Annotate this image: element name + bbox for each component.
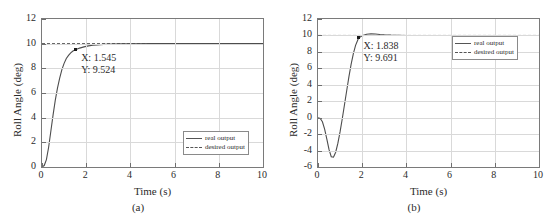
y-axis-tick	[318, 151, 322, 152]
x-axis-tick	[219, 163, 220, 167]
y-axis-tick	[318, 85, 322, 86]
legend-swatch-dashed	[455, 52, 471, 53]
y-axis-tick	[318, 101, 322, 102]
x-axis-tick	[318, 163, 319, 167]
y-axis-tick-label: 4	[286, 79, 312, 89]
y-axis-tick-label: 6	[286, 62, 312, 72]
x-axis-tick-label: 2	[73, 170, 97, 180]
x-axis-tick	[451, 163, 452, 167]
gridline-horizontal	[318, 151, 539, 152]
gridline-horizontal	[318, 134, 539, 135]
gridline-vertical	[175, 19, 176, 167]
gridline-vertical	[86, 19, 87, 167]
x-axis-tick	[495, 163, 496, 167]
data-tip-y-value: Y: 9.524	[81, 64, 116, 76]
y-axis-tick-label: 2	[10, 136, 36, 146]
y-axis-tick-label: 10	[10, 38, 36, 48]
gridline-horizontal	[42, 93, 263, 94]
gridline-horizontal	[42, 44, 263, 45]
y-axis-tick-label: 4	[10, 112, 36, 122]
chart-legend[interactable]: real outputdesired output	[183, 131, 249, 155]
x-axis-tick	[130, 163, 131, 167]
x-axis-tick	[539, 163, 540, 167]
x-axis-tick-label: 4	[393, 170, 417, 180]
y-axis-title-a: Roll Angle (deg)	[11, 63, 23, 137]
y-axis-tick	[42, 142, 46, 143]
gridline-vertical	[406, 19, 407, 167]
x-axis-title-b: Time (s)	[317, 185, 540, 197]
gridline-horizontal	[318, 118, 539, 119]
y-axis-tick	[42, 44, 46, 45]
legend-item-label: real output	[474, 39, 504, 48]
y-axis-tick	[318, 118, 322, 119]
data-tip-marker[interactable]	[74, 48, 77, 51]
legend-item[interactable]: real output	[455, 39, 514, 48]
data-tip-x-value: X: 1.545	[81, 52, 116, 64]
legend-item-label: real output	[205, 134, 235, 143]
data-tip-label: X: 1.838Y: 9.691	[364, 40, 399, 64]
legend-swatch-solid	[186, 138, 202, 139]
data-tip-marker[interactable]	[357, 36, 360, 39]
gridline-horizontal	[318, 85, 539, 86]
x-axis-tick	[175, 163, 176, 167]
y-axis-tick-label: 2	[286, 95, 312, 105]
x-axis-tick-label: 4	[117, 170, 141, 180]
y-axis-tick	[42, 68, 46, 69]
y-axis-tick-label: 12	[286, 13, 312, 23]
y-axis-tick	[42, 93, 46, 94]
data-tip-label: X: 1.545Y: 9.524	[81, 52, 116, 76]
y-axis-tick-label: -4	[286, 145, 312, 155]
legend-item-label: desired output	[474, 48, 514, 57]
panel-caption-b: (b)	[276, 201, 552, 213]
x-axis-tick-label: 0	[29, 170, 53, 180]
x-axis-tick-label: 6	[438, 170, 462, 180]
x-axis-tick-label: 10	[526, 170, 550, 180]
legend-item[interactable]: real output	[186, 134, 245, 143]
gridline-horizontal	[42, 118, 263, 119]
chart-legend[interactable]: real outputdesired output	[452, 36, 518, 60]
y-axis-tick-label: 8	[286, 46, 312, 56]
x-axis-tick-label: 6	[162, 170, 186, 180]
legend-item[interactable]: desired output	[186, 143, 245, 152]
chart-panel-a: Roll Angle (deg) Time (s) (a) 0246810120…	[0, 0, 276, 220]
y-axis-tick-label: -2	[286, 128, 312, 138]
gridline-horizontal	[318, 101, 539, 102]
y-axis-tick	[318, 19, 322, 20]
x-axis-tick-label: 2	[349, 170, 373, 180]
legend-swatch-solid	[455, 43, 471, 44]
y-axis-tick	[42, 167, 46, 168]
legend-item-label: desired output	[205, 143, 245, 152]
y-axis-tick-label: 6	[10, 87, 36, 97]
y-axis-tick	[42, 19, 46, 20]
y-axis-tick	[318, 35, 322, 36]
y-axis-tick	[318, 134, 322, 135]
data-tip-x-value: X: 1.838	[364, 40, 399, 52]
gridline-vertical	[130, 19, 131, 167]
x-axis-tick-label: 8	[206, 170, 230, 180]
y-axis-tick	[318, 167, 322, 168]
x-axis-tick	[263, 163, 264, 167]
y-axis-tick-label: 0	[286, 112, 312, 122]
y-axis-tick	[42, 118, 46, 119]
y-axis-tick-label: 12	[10, 13, 36, 23]
data-tip-y-value: Y: 9.691	[364, 52, 399, 64]
gridline-horizontal	[42, 68, 263, 69]
y-axis-tick	[318, 68, 322, 69]
legend-item[interactable]: desired output	[455, 48, 514, 57]
gridline-horizontal	[318, 68, 539, 69]
panel-caption-a: (a)	[0, 201, 276, 213]
x-axis-tick	[86, 163, 87, 167]
x-axis-tick	[362, 163, 363, 167]
y-axis-tick	[318, 52, 322, 53]
y-axis-tick-label: 8	[10, 62, 36, 72]
x-axis-tick-label: 0	[305, 170, 329, 180]
x-axis-tick-label: 10	[250, 170, 274, 180]
y-axis-tick-label: 10	[286, 29, 312, 39]
x-axis-tick	[42, 163, 43, 167]
chart-panel-b: Roll Angle (deg) Time (s) (b) -6-4-20246…	[276, 0, 552, 220]
x-axis-tick-label: 8	[482, 170, 506, 180]
x-axis-tick	[406, 163, 407, 167]
figure-container: Roll Angle (deg) Time (s) (a) 0246810120…	[0, 0, 552, 220]
x-axis-title-a: Time (s)	[41, 185, 264, 197]
legend-swatch-dashed	[186, 147, 202, 148]
